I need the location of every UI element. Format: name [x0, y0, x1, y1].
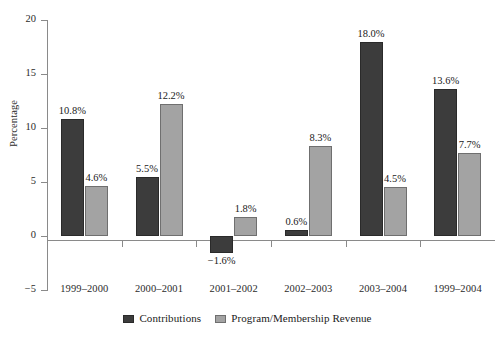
y-tick-mark	[41, 74, 48, 75]
bar-program-membership-revenue	[234, 217, 257, 236]
bar-value-label: 4.6%	[69, 173, 123, 184]
legend-label-contributions: Contributions	[139, 313, 201, 324]
y-tick-label: 10	[0, 122, 36, 133]
bar-program-membership-revenue	[458, 153, 481, 236]
grouped-bar-chart: Percentage 20151050−5 10.8%4.6%5.5%12.2%…	[0, 0, 495, 342]
y-tick-label: 0	[0, 230, 36, 241]
x-tick-mark	[346, 241, 347, 247]
legend-item-contributions: Contributions	[123, 313, 201, 324]
bar-value-label: 13.6%	[419, 76, 473, 87]
bar-value-label: 12.2%	[144, 91, 198, 102]
y-tick-mark	[41, 182, 48, 183]
y-tick-mark	[41, 20, 48, 21]
y-tick-mark	[41, 128, 48, 129]
bar-program-membership-revenue	[85, 186, 108, 236]
y-tick-mark	[41, 236, 48, 237]
cropped-caption-remnant	[0, 0, 495, 6]
bar-value-label: 1.8%	[219, 204, 273, 215]
bar-program-membership-revenue	[160, 104, 183, 236]
bar-value-label: −1.6%	[195, 256, 249, 267]
legend-label-program-membership-revenue: Program/Membership Revenue	[231, 313, 371, 324]
bar-program-membership-revenue	[309, 146, 332, 236]
bar-value-label: 4.5%	[368, 174, 422, 185]
bar-value-label: 10.8%	[45, 106, 99, 117]
x-tick-mark	[420, 241, 421, 247]
y-tick-label: −5	[0, 284, 36, 295]
x-tick-label: 1999–2004	[413, 284, 495, 295]
x-tick-mark	[271, 241, 272, 247]
bar-contributions	[434, 89, 457, 236]
bar-contributions	[285, 230, 308, 236]
legend-item-program-membership-revenue: Program/Membership Revenue	[215, 313, 371, 324]
bar-value-label: 18.0%	[344, 29, 398, 40]
bar-program-membership-revenue	[384, 187, 407, 236]
bar-value-label: 7.7%	[443, 140, 495, 151]
chart-legend: Contributions Program/Membership Revenue	[0, 313, 495, 324]
y-tick-label: 20	[0, 14, 36, 25]
bar-value-label: 8.3%	[293, 133, 347, 144]
y-axis-line	[47, 20, 48, 290]
bar-contributions	[210, 236, 233, 253]
bar-contributions	[360, 42, 383, 236]
x-tick-mark	[196, 241, 197, 247]
bar-contributions	[136, 177, 159, 236]
y-tick-label: 5	[0, 176, 36, 187]
x-tick-mark	[122, 241, 123, 247]
legend-swatch-contributions	[123, 315, 134, 323]
y-tick-label: 15	[0, 68, 36, 79]
legend-swatch-program-membership-revenue	[215, 315, 226, 323]
